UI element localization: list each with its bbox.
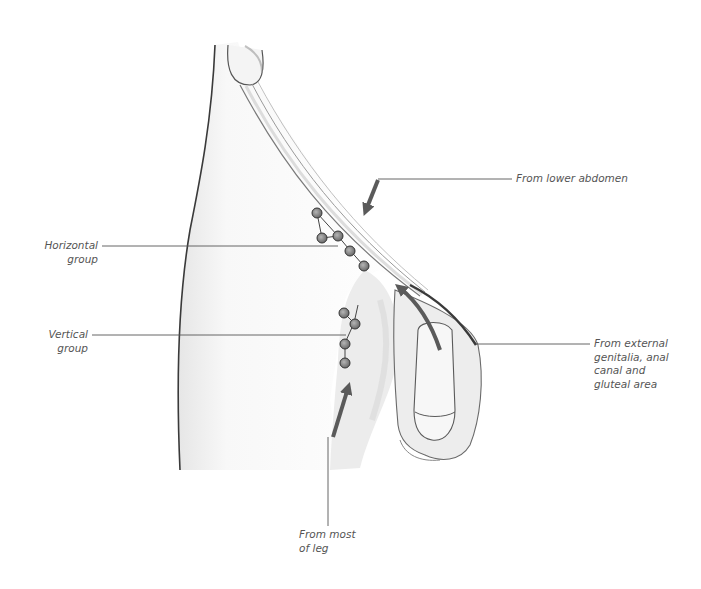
external-genitalia	[394, 290, 482, 460]
lymph-node	[339, 308, 349, 318]
lymph-node	[312, 208, 322, 218]
label-from-external-genitalia: From external genitalia, anal canal and …	[594, 337, 669, 391]
lymph-node	[359, 261, 369, 271]
lymph-node	[345, 246, 355, 256]
lymph-node	[333, 231, 343, 241]
lymph-node	[340, 339, 350, 349]
label-from-lower-abdomen: From lower abdomen	[516, 172, 628, 186]
lymph-node	[317, 233, 327, 243]
label-from-most-of-leg: From most of leg	[299, 528, 356, 555]
lymph-node	[340, 358, 350, 368]
inguinal-lymph-diagram: From lower abdomen Horizontal group Vert…	[0, 0, 701, 589]
lymph-node	[350, 319, 360, 329]
label-horizontal-group: Horizontal group	[20, 239, 98, 266]
arrow-from-lower-abdomen	[366, 180, 378, 210]
label-vertical-group: Vertical group	[20, 328, 88, 355]
anatomy-illustration	[0, 0, 701, 589]
